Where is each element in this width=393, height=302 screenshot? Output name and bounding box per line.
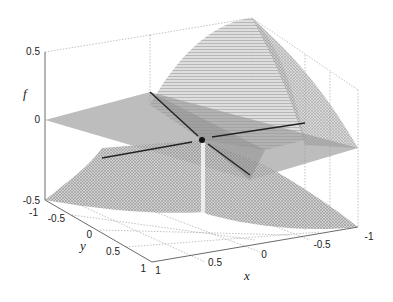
z-axis-label: f [23, 86, 29, 101]
svg-text:1: 1 [155, 265, 161, 276]
surface-left-down [45, 140, 202, 213]
origin-point [199, 137, 205, 143]
svg-text:-0.5: -0.5 [23, 195, 41, 206]
svg-text:0: 0 [86, 229, 92, 240]
svg-text:-0.5: -0.5 [48, 213, 66, 224]
x-axis-label: x [243, 268, 250, 283]
x-axis-ticks: 1 0.5 0 -0.5 -1 [155, 231, 374, 276]
z-axis-ticks: 0.5 0 -0.5 [23, 46, 41, 206]
surface-plot: 0.5 0 -0.5 f -1 -0.5 0 0.5 1 y 1 0.5 0 -… [0, 0, 393, 302]
svg-text:1: 1 [140, 263, 146, 274]
svg-text:-0.5: -0.5 [313, 239, 331, 250]
svg-text:-1: -1 [29, 207, 38, 218]
svg-text:0.5: 0.5 [106, 246, 120, 257]
svg-text:0.5: 0.5 [208, 257, 222, 268]
y-axis-label: y [78, 238, 86, 253]
svg-text:0.5: 0.5 [26, 46, 40, 57]
svg-text:-1: -1 [365, 231, 374, 242]
svg-text:0: 0 [34, 114, 40, 125]
svg-text:0: 0 [261, 249, 267, 260]
singular-slit [201, 143, 205, 213]
